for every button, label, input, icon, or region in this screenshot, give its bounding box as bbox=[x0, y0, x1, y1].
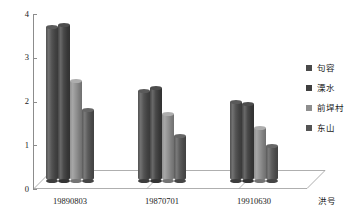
chart-legend: 句容溧水前垾村东山 bbox=[306, 58, 363, 138]
bar-top-ellipse bbox=[82, 108, 94, 112]
legend-item-句容[interactable]: 句容 bbox=[306, 58, 363, 78]
bar-chart: 百分比/% 01234 198908031987070119910630 洪号 … bbox=[0, 0, 363, 218]
bar-top-ellipse bbox=[46, 25, 58, 29]
y-tick-label-0: 0 bbox=[9, 185, 29, 194]
legend-label: 句容 bbox=[317, 64, 335, 73]
bar-top-ellipse bbox=[70, 79, 82, 83]
legend-swatch-icon bbox=[306, 105, 312, 111]
legend-swatch-icon bbox=[306, 85, 312, 91]
plot-area bbox=[34, 14, 326, 189]
bar-base-ellipse bbox=[70, 179, 82, 183]
bar-base-ellipse bbox=[230, 179, 242, 183]
legend-swatch-icon bbox=[306, 65, 312, 71]
bar-base-ellipse bbox=[254, 179, 266, 183]
legend-item-前垾村[interactable]: 前垾村 bbox=[306, 98, 363, 118]
y-tick-label-1: 1 bbox=[9, 141, 29, 150]
bar-base-ellipse bbox=[174, 179, 186, 183]
bar-base-ellipse bbox=[82, 179, 94, 183]
x-tick-label-19870701: 19870701 bbox=[132, 197, 192, 206]
bar-shading bbox=[46, 27, 58, 181]
bar-base-ellipse bbox=[266, 179, 278, 183]
y-tick-label-3: 3 bbox=[9, 53, 29, 62]
bar-group-19870701 bbox=[138, 14, 188, 181]
bar-group-19890803 bbox=[46, 14, 96, 181]
legend-label: 溧水 bbox=[317, 84, 335, 93]
bar-base-ellipse bbox=[58, 179, 70, 183]
y-tick-0 bbox=[33, 189, 37, 190]
bar-shading bbox=[82, 110, 94, 181]
legend-label: 前垾村 bbox=[317, 104, 344, 113]
bar-base-ellipse bbox=[150, 179, 162, 183]
bar-shading bbox=[150, 88, 162, 181]
x-axis-title: 洪号 bbox=[318, 197, 336, 206]
bar-shading bbox=[242, 104, 254, 181]
bar-top-ellipse bbox=[242, 102, 254, 106]
bar-top-ellipse bbox=[230, 100, 242, 104]
bar-base-ellipse bbox=[138, 179, 150, 183]
y-tick-label-2: 2 bbox=[9, 97, 29, 106]
bar-base-ellipse bbox=[242, 179, 254, 183]
bar-shading bbox=[266, 146, 278, 181]
bar-shading bbox=[230, 102, 242, 181]
bar-shading bbox=[70, 81, 82, 181]
bar-base-ellipse bbox=[46, 179, 58, 183]
legend-item-东山[interactable]: 东山 bbox=[306, 118, 363, 138]
bar-top-ellipse bbox=[266, 144, 278, 148]
x-tick-label-19910630: 19910630 bbox=[224, 197, 284, 206]
bar-shading bbox=[138, 91, 150, 181]
legend-swatch-icon bbox=[306, 125, 312, 131]
legend-item-溧水[interactable]: 溧水 bbox=[306, 78, 363, 98]
x-tick-label-19890803: 19890803 bbox=[40, 197, 100, 206]
bar-group-19910630 bbox=[230, 14, 280, 181]
bar-top-ellipse bbox=[254, 126, 266, 130]
legend-label: 东山 bbox=[317, 124, 335, 133]
bar-shading bbox=[174, 136, 186, 181]
bar-shading bbox=[254, 128, 266, 181]
y-tick-label-4: 4 bbox=[9, 10, 29, 19]
bar-shading bbox=[58, 25, 70, 181]
bar-shading bbox=[162, 114, 174, 181]
bar-base-ellipse bbox=[162, 179, 174, 183]
